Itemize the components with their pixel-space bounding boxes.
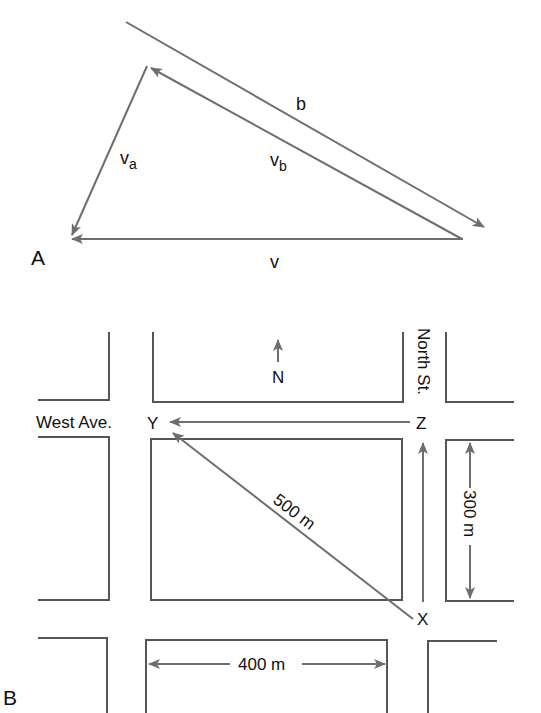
compass-n: N: [272, 368, 284, 387]
panel-b-label: B: [3, 686, 17, 709]
block-bottom-center: [146, 640, 387, 713]
vector-x-to-y: [173, 433, 413, 619]
block-mid-center: [151, 439, 402, 600]
block-bottom-left: [38, 638, 107, 713]
dim-label-300: 300 m: [460, 490, 479, 537]
label-b: b: [296, 94, 306, 114]
block-top-left: [38, 332, 109, 400]
panel-a: b va vb v A: [31, 22, 484, 272]
block-mid-left: [38, 437, 109, 600]
street-west-ave: West Ave.: [36, 413, 112, 432]
block-mid-right: [446, 440, 514, 601]
label-vb: vb: [270, 150, 287, 174]
label-v: v: [270, 252, 279, 272]
vector-vb: [151, 68, 462, 239]
point-z: Z: [416, 414, 426, 433]
vector-diagram: b va vb v A West Ave.: [0, 0, 541, 713]
point-y: Y: [147, 414, 158, 433]
panel-a-label: A: [31, 246, 45, 269]
vector-va: [72, 66, 147, 235]
dim-label-400: 400 m: [238, 655, 285, 674]
panel-b-labels: West Ave. Y Z X N North St. 500 m 300 m …: [3, 328, 479, 709]
block-top-right: [446, 332, 514, 402]
street-north-st: North St.: [414, 328, 433, 395]
vector-b: [126, 22, 484, 227]
point-x: X: [417, 610, 428, 629]
label-va: va: [120, 148, 137, 172]
block-bottom-right: [428, 641, 497, 713]
